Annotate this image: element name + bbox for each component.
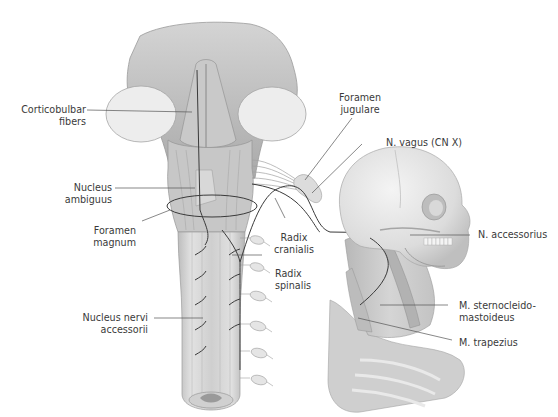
- peduncle-left: [106, 86, 176, 142]
- peduncle-right: [238, 87, 306, 141]
- spinal-cord: [178, 232, 245, 410]
- label-corticobulbar-fibers: Corticobulbar fibers: [10, 104, 86, 128]
- label-n-accessorius: N. accessorius: [478, 229, 547, 241]
- label-n-vagus: N. vagus (CN X): [386, 137, 462, 149]
- label-foramen-jugulare: Foramen jugulare: [328, 92, 392, 116]
- label-foramen-magnum: Foramen magnum: [70, 225, 136, 249]
- anatomy-illustration: [0, 0, 558, 417]
- label-m-sternocleidomastoideus: M. sternocleido- mastoideus: [459, 300, 536, 324]
- label-m-trapezius: M. trapezius: [459, 337, 518, 349]
- label-nucleus-nervi-accessorii: Nucleus nervi accessorii: [60, 312, 148, 336]
- label-radix-spinalis: Radix spinalis: [275, 268, 311, 292]
- spinal-root-ganglia: [249, 234, 268, 386]
- label-radix-cranialis: Radix cranialis: [268, 232, 320, 256]
- head-neck-group: [328, 147, 470, 412]
- label-nucleus-ambiguus: Nucleus ambiguus: [40, 182, 112, 206]
